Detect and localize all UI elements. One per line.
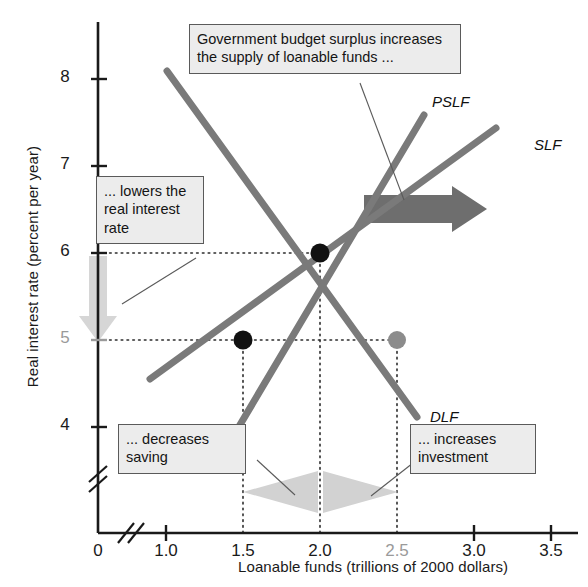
- pslf-curve-label: PSLF: [432, 93, 470, 110]
- x-tick-label-3-5: 3.5: [526, 541, 576, 561]
- x-tick-label-0: 0: [85, 541, 111, 561]
- y-tick-label-7: 7: [52, 154, 78, 174]
- leader-lowers-rate: [122, 258, 196, 304]
- decreases-saving-callout: ... decreases saving: [118, 424, 246, 474]
- lowers-rate-callout: ... lowers the real interest rate: [96, 176, 204, 244]
- y-tick-label-4: 4: [52, 415, 78, 435]
- increases-investment-callout: ... increases investment: [410, 424, 536, 474]
- dlf-curve: [167, 71, 417, 417]
- slf-curve-label: SLF: [534, 136, 562, 153]
- initial-equilibrium-point: [311, 244, 330, 263]
- loanable-funds-market-chart: [0, 0, 588, 587]
- pslf-curve: [228, 115, 424, 445]
- new-equilibrium-point: [388, 331, 406, 349]
- x-tick-label-2-0: 2.0: [295, 541, 345, 561]
- x-tick-label-3-0: 3.0: [449, 541, 499, 561]
- y-tick-label-8: 8: [52, 67, 78, 87]
- y-tick-label-5: 5: [52, 328, 78, 348]
- surplus-callout: Government budget surplus increases the …: [189, 24, 461, 74]
- x-tick-label-1-0: 1.0: [141, 541, 191, 561]
- x-tick-label-1-5: 1.5: [218, 541, 268, 561]
- saving-decrease-arrow: [243, 471, 318, 513]
- investment-increase-arrow: [323, 471, 398, 513]
- x-tick-label-2-5: 2.5: [372, 541, 422, 561]
- y-axis-title: Real interest rate (percent per year): [24, 97, 41, 437]
- y-tick-label-6: 6: [52, 241, 78, 261]
- dlf-curve-label: DLF: [430, 408, 458, 425]
- saving-point: [234, 331, 253, 350]
